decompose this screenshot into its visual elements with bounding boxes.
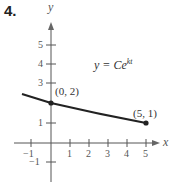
y-tick-label: 4 [38,58,43,69]
equation-base: y = Ce [94,58,127,72]
x-tick-label: 3 [105,148,110,159]
y-axis-label: y [48,0,53,15]
x-axis-arrow-icon [152,140,160,146]
equation-label: y = Cekt [94,57,133,73]
x-tick-label: 4 [124,148,129,159]
y-axis-arrow-icon [48,22,54,30]
point-5-1 [143,120,148,125]
x-tick-label: 5 [143,148,148,159]
equation-exponent: kt [127,57,133,66]
x-axis-label: x [163,135,168,150]
point-0-2 [48,100,53,105]
x-tick-label: 1 [67,148,72,159]
y-tick-label: 1 [38,117,43,128]
point-label-0-2: (0, 2) [55,85,79,97]
y-tick-label: 3 [38,77,43,88]
y-tick-label: −1 [29,156,40,167]
point-label-5-1: (5, 1) [133,107,157,119]
y-tick-label: 5 [38,39,43,50]
x-tick-label: 2 [86,148,91,159]
